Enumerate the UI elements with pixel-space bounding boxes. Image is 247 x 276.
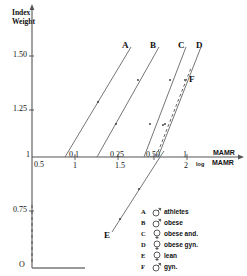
male-symbol-icon xyxy=(152,262,164,272)
data-point xyxy=(164,123,166,125)
legend-label-b: obese xyxy=(164,219,183,226)
male-symbol-icon xyxy=(152,207,164,217)
legend-row-a: A athletes xyxy=(141,206,198,217)
data-point xyxy=(169,79,171,81)
legend-key-f: F xyxy=(141,263,152,270)
y-axis-arrow xyxy=(30,4,35,10)
female-symbol-icon xyxy=(152,229,164,239)
legend-key-b: B xyxy=(141,219,152,226)
legend-key-c: C xyxy=(141,230,152,237)
female-symbol-icon xyxy=(152,251,164,261)
legend-key-d: D xyxy=(141,241,152,248)
data-point xyxy=(149,123,151,125)
legend: A athletes B obese C obese and. D xyxy=(141,206,198,272)
legend-label-d: obese gyn. xyxy=(164,241,198,248)
series-line-a xyxy=(65,47,131,157)
legend-row-f: F gyn. xyxy=(141,261,198,272)
data-point xyxy=(137,79,139,81)
legend-row-e: E lean xyxy=(141,250,198,261)
legend-label-e: lean xyxy=(164,252,177,259)
male-symbol-icon xyxy=(152,218,164,228)
series-line-b xyxy=(97,47,159,157)
legend-row-b: B obese xyxy=(141,217,198,228)
female-symbol-icon xyxy=(152,240,164,250)
x-axis-arrow xyxy=(238,155,244,160)
legend-label-a: athletes xyxy=(164,208,189,215)
legend-key-a: A xyxy=(141,208,152,215)
data-point xyxy=(97,101,99,103)
data-point xyxy=(119,218,121,220)
data-point xyxy=(115,123,117,125)
data-point xyxy=(162,124,164,126)
chart-figure: Index Weight 1.50 1.25 1 0.75 O 0.5 0.1 … xyxy=(0,0,247,276)
plot-canvas xyxy=(0,0,247,276)
legend-key-e: E xyxy=(141,252,152,259)
legend-row-c: C obese and. xyxy=(141,228,198,239)
legend-label-c: obese and. xyxy=(164,230,198,237)
legend-row-d: D obese gyn. xyxy=(141,239,198,250)
legend-label-f: gyn. xyxy=(164,263,177,270)
data-point xyxy=(138,188,140,190)
